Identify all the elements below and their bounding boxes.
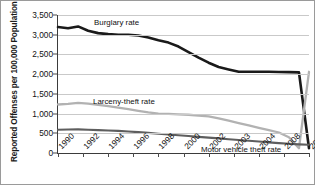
series-label-motor-vehicle-theft-rate: Motor vehicle theft rate [201,145,281,154]
y-axis-tick-label: 1,500 [32,89,53,99]
x-axis-tick-mark [284,153,285,157]
crime-rate-line-chart: Reported Offenses per 100,000 Population… [0,0,315,185]
gridline [58,94,309,95]
x-axis-tick-mark [133,153,134,157]
x-axis-tick-mark [108,153,109,157]
y-axis-tick-label: 1,000 [32,109,53,119]
series-label-larceny-theft-rate: Larceny-theft rate [93,97,155,106]
gridline [58,35,309,36]
y-axis-tick-label: 2,500 [32,49,53,59]
y-axis-title: Reported Offenses per 100,000 Population [9,2,18,163]
series-label-burglary-rate: Burglary rate [94,18,139,27]
x-axis-tick-mark [309,153,310,157]
x-axis-tick-mark [83,153,84,157]
x-axis-tick-mark [184,153,185,157]
gridline [58,15,309,16]
gridline [58,114,309,115]
gridline [58,54,309,55]
y-axis-tick-label: 500 [39,128,53,138]
y-axis-tick-labels: 05001,0001,5002,0002,5003,0003,500 [25,1,57,163]
y-axis-tick-label: 3,000 [32,30,53,40]
x-axis-tick-mark [158,153,159,157]
gridline [58,74,309,75]
y-axis-tick-label: 3,500 [32,10,53,20]
x-axis-tick-mark [58,153,59,157]
y-axis-tick-label: 2,000 [32,69,53,79]
y-axis-title-container: Reported Offenses per 100,000 Population [1,1,27,163]
